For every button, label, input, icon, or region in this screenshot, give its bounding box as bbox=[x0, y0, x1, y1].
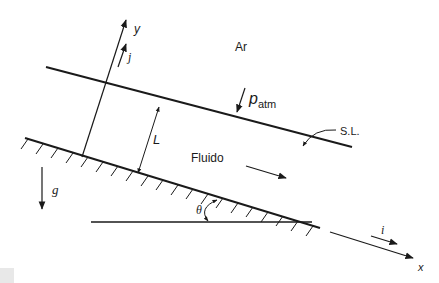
unit-j-label: j⃗ bbox=[128, 51, 141, 63]
y-axis-arrow bbox=[82, 20, 126, 157]
gravity-label: g⃗ bbox=[52, 183, 69, 196]
pressure-arrow bbox=[237, 88, 245, 112]
thickness-label: L bbox=[153, 133, 160, 146]
unit-j-arrow bbox=[118, 44, 126, 67]
pressure-label: patm bbox=[249, 91, 276, 110]
air-label: Ar bbox=[235, 41, 247, 53]
flow-direction-arrow bbox=[246, 166, 286, 178]
unit-i-label: i⃗ bbox=[381, 224, 394, 236]
y-axis-label: y bbox=[134, 23, 140, 35]
free-surface-line bbox=[46, 67, 352, 147]
angle-arc bbox=[205, 200, 217, 221]
unit-i-arrow bbox=[371, 236, 397, 244]
pressure-symbol: p bbox=[249, 90, 258, 107]
x-axis-label: x bbox=[418, 262, 424, 273]
pressure-subscript: atm bbox=[258, 98, 276, 110]
fluid-label: Fluido bbox=[191, 152, 224, 164]
free-surface-label: S.L. bbox=[340, 126, 360, 137]
corner-artifact bbox=[0, 268, 14, 283]
diagram-graphics bbox=[0, 0, 439, 283]
diagram-canvas: y j⃗ Ar patm S.L. L Fluido g⃗ θ i⃗ x bbox=[0, 0, 439, 283]
inclined-wall bbox=[25, 138, 320, 228]
angle-label: θ bbox=[196, 204, 202, 216]
